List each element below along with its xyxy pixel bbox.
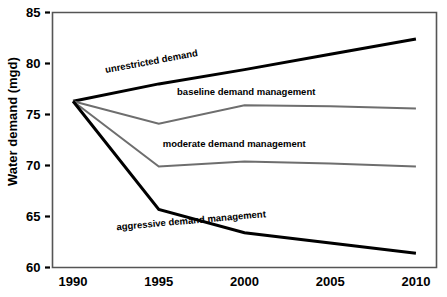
y-tick-label-70: 70 (26, 158, 40, 173)
water-demand-line-chart: 606570758085 19901995200020052010 unrest… (0, 0, 447, 297)
y-tick-label-60: 60 (26, 260, 40, 275)
x-tick-label-1990: 1990 (59, 274, 88, 289)
series-label-moderate-demand-management: moderate demand management (163, 138, 307, 149)
y-axis-title-text: Water demand (mgd) (5, 57, 20, 186)
x-tick-label-2000: 2000 (230, 274, 259, 289)
y-axis-title: Water demand (mgd) (5, 57, 20, 186)
x-tick-label-1995: 1995 (144, 274, 173, 289)
y-tick-label-65: 65 (26, 209, 40, 224)
y-tick-label-85: 85 (26, 5, 40, 20)
chart-figure: 606570758085 19901995200020052010 unrest… (0, 0, 447, 297)
x-tick-label-2005: 2005 (316, 274, 345, 289)
y-tick-label-75: 75 (26, 107, 40, 122)
y-tick-label-80: 80 (26, 56, 40, 71)
series-label-baseline-demand-management: baseline demand management (177, 86, 316, 97)
x-tick-label-2010: 2010 (401, 274, 430, 289)
